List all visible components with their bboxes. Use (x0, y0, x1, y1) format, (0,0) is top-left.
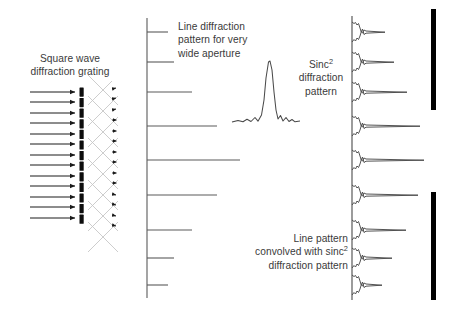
incident-wave-arrows (30, 92, 75, 218)
convolved-order (352, 185, 418, 205)
convolved-order (352, 248, 392, 268)
convolved-order (352, 150, 424, 170)
caption-line-diffraction-pattern: Line diffraction pattern for very wide a… (178, 20, 282, 60)
convolved-order (352, 22, 385, 42)
convolved-label-suffix: diffraction pattern (269, 260, 348, 271)
sinc-label-exponent: 2 (329, 57, 333, 66)
caption-convolved-pattern: Line pattern convolved with sinc2 diffra… (222, 232, 348, 272)
convolved-label-exponent: 2 (344, 244, 348, 253)
grating-bars (80, 88, 84, 224)
convolved-pattern (352, 16, 424, 300)
caption-sinc-squared-pattern: Sinc2 diffraction pattern (288, 58, 354, 98)
convolved-order (352, 52, 394, 72)
aperture-bar-upper (431, 9, 436, 110)
convolved-label-prefix: Line pattern convolved with sinc (255, 233, 348, 257)
convolved-order (352, 116, 420, 136)
convolved-order (352, 220, 406, 240)
aperture-bar-lower (431, 192, 436, 300)
sinc-label-prefix: Sinc (309, 59, 329, 70)
caption-square-wave-grating: Square wave diffraction grating (14, 52, 126, 79)
convolved-order (352, 275, 382, 295)
diffraction-figure: Square wave diffraction grating Line dif… (0, 0, 458, 309)
aperture-bars (431, 9, 436, 300)
sinc-label-suffix: diffraction pattern (299, 72, 344, 96)
convolved-order (352, 82, 407, 102)
